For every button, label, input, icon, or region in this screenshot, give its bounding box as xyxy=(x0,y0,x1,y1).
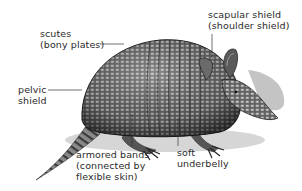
label-scapular-shield: scapular shield (shoulder shield) xyxy=(208,9,289,31)
label-armored-bands: armored bands (connected by flexible ski… xyxy=(76,149,149,182)
eye xyxy=(235,91,238,94)
label-pelvic-shield: pelvic shield xyxy=(18,84,47,106)
label-soft-underbelly: soft underbelly xyxy=(177,147,229,169)
label-scutes: scutes (bony plates) xyxy=(40,28,104,50)
